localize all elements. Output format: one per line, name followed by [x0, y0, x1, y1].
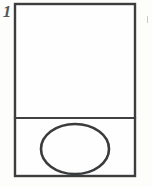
- upper-panel-fill: [16, 5, 134, 117]
- figure-canvas: 1: [0, 0, 152, 187]
- technical-drawing: [0, 0, 152, 187]
- lower-panel-fill: [16, 119, 134, 175]
- scan-artifact: [147, 16, 148, 23]
